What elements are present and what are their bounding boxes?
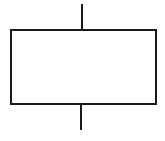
rectangle-block (11, 30, 156, 104)
diagram-canvas (0, 0, 165, 141)
